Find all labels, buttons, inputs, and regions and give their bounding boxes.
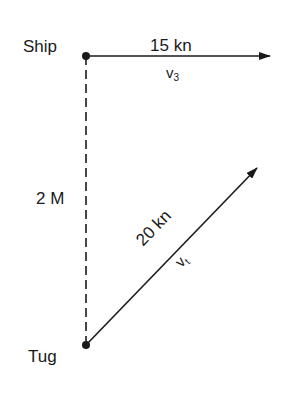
tug-position-dot — [82, 341, 90, 349]
ship-velocity-symbol: v3 — [166, 65, 179, 83]
ship-velocity-symbol-v: v — [166, 64, 174, 81]
distance-label: 2 M — [36, 190, 64, 207]
ship-speed-label: 15 kn — [150, 37, 192, 54]
ship-velocity-subscript: 3 — [174, 72, 180, 83]
ship-label: Ship — [23, 38, 57, 55]
tug-label: Tug — [28, 348, 57, 365]
ship-position-dot — [82, 52, 90, 60]
